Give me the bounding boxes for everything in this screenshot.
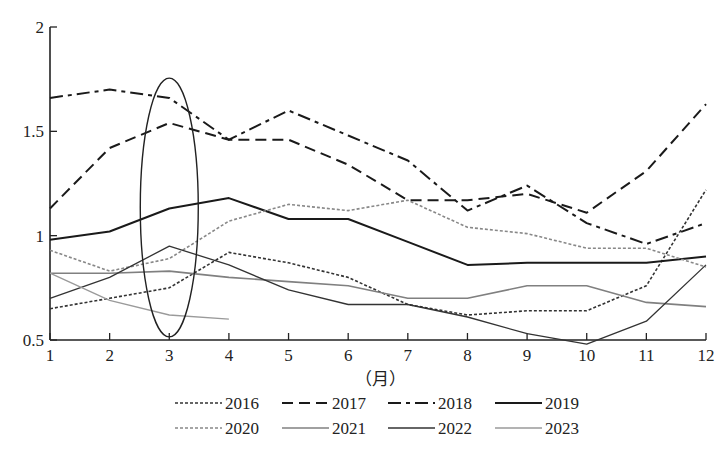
y-tick-label: 2 [36, 18, 45, 37]
x-tick-label: 8 [463, 346, 472, 365]
y-tick-label: 1 [36, 227, 45, 246]
line-chart: 0.511.52123456789101112 （月） 201620172018… [0, 0, 722, 458]
x-tick-label: 9 [523, 346, 532, 365]
legend-label: 2019 [545, 394, 579, 413]
legend-label: 2022 [438, 419, 472, 438]
legend-item-2022: 2022 [388, 419, 472, 438]
legend-label: 2018 [438, 394, 472, 413]
x-tick-label: 1 [46, 346, 55, 365]
legend-item-2016: 2016 [175, 394, 259, 413]
legend: 20162017201820192020202120222023 [175, 394, 579, 438]
y-tick-label: 1.5 [23, 122, 44, 141]
legend-label: 2023 [545, 419, 579, 438]
legend-item-2017: 2017 [282, 394, 367, 413]
legend-item-2020: 2020 [175, 419, 259, 438]
x-tick-label: 7 [404, 346, 413, 365]
x-tick-label: 11 [638, 346, 654, 365]
legend-label: 2017 [332, 394, 367, 413]
x-axis-title: （月） [355, 370, 406, 389]
x-tick-label: 3 [165, 346, 174, 365]
x-tick-label: 2 [105, 346, 114, 365]
legend-label: 2020 [225, 419, 259, 438]
x-tick-label: 4 [225, 346, 234, 365]
axes: 0.511.52123456789101112 [23, 18, 715, 365]
legend-label: 2016 [225, 394, 259, 413]
x-tick-label: 12 [698, 346, 715, 365]
legend-item-2019: 2019 [495, 394, 579, 413]
x-tick-label: 10 [578, 346, 595, 365]
x-tick-label: 6 [344, 346, 353, 365]
series-2023 [50, 273, 229, 319]
legend-item-2021: 2021 [282, 419, 366, 438]
series-2020 [50, 200, 706, 271]
y-tick-label: 0.5 [23, 331, 44, 350]
legend-label: 2021 [332, 419, 366, 438]
legend-item-2018: 2018 [388, 394, 472, 413]
series-lines [50, 90, 706, 345]
x-tick-label: 5 [284, 346, 293, 365]
series-2018 [50, 90, 706, 244]
legend-item-2023: 2023 [495, 419, 579, 438]
series-2019 [50, 198, 706, 265]
